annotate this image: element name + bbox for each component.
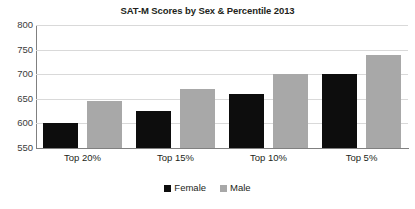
legend-label: Female — [174, 183, 206, 193]
y-axis-tick-label: 800 — [3, 20, 33, 30]
legend-item-female[interactable]: Female — [164, 183, 206, 193]
chart-legend: FemaleMale — [0, 183, 415, 193]
x-axis-tick-label: Top 5% — [315, 151, 408, 165]
y-axis-tick-label: 750 — [3, 45, 33, 55]
x-axis-tick-label: Top 15% — [129, 151, 222, 165]
legend-swatch-icon — [220, 185, 227, 192]
bar-male-1 — [180, 89, 215, 148]
legend-swatch-icon — [164, 185, 171, 192]
legend-label: Male — [230, 183, 251, 193]
x-axis-tick-label: Top 20% — [36, 151, 129, 165]
chart-container: SAT-M Scores by Sex & Percentile 2013 80… — [0, 0, 415, 209]
bar-female-3 — [322, 74, 357, 148]
x-axis-labels: Top 20%Top 15%Top 10%Top 5% — [36, 151, 408, 167]
bar-male-3 — [366, 55, 401, 148]
bar-male-2 — [273, 74, 308, 148]
y-axis-tick-label: 700 — [3, 69, 33, 79]
y-axis-tick-label: 550 — [3, 143, 33, 153]
y-axis-tick-label: 600 — [3, 118, 33, 128]
gridline — [36, 25, 408, 26]
x-axis-line — [36, 148, 409, 149]
gridline — [36, 50, 408, 51]
plot-area — [36, 25, 408, 148]
y-axis-tick-label: 650 — [3, 94, 33, 104]
bar-female-1 — [136, 111, 171, 148]
bar-female-2 — [229, 94, 264, 148]
x-axis-tick-label: Top 10% — [222, 151, 315, 165]
bar-female-0 — [43, 123, 78, 148]
chart-title: SAT-M Scores by Sex & Percentile 2013 — [0, 5, 415, 16]
bar-male-0 — [87, 101, 122, 148]
y-axis-labels: 800750700650600550 — [0, 0, 33, 209]
legend-item-male[interactable]: Male — [220, 183, 251, 193]
